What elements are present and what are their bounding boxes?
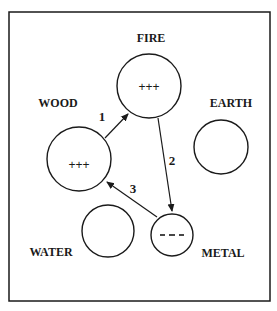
earth-label: EARTH [210,96,253,110]
fire-charge: +++ [138,80,159,94]
wood-label: WOOD [38,96,78,110]
arrow-1-label: 1 [99,109,106,124]
fire-label: FIRE [137,31,166,45]
wood-charge: +++ [68,158,89,172]
earth-circle [194,120,248,174]
metal-label: METAL [201,246,244,260]
water-label: WATER [29,245,72,259]
arrow-2-label: 2 [169,153,176,168]
arrow-1-wood-to-fire [105,114,128,138]
arrow-3-label: 3 [130,181,137,196]
five-elements-diagram: FIRE WOOD EARTH WATER METAL +++ +++ 1 2 … [0,0,277,311]
diagram-canvas: FIRE WOOD EARTH WATER METAL +++ +++ 1 2 … [0,0,277,311]
water-circle [82,205,134,257]
